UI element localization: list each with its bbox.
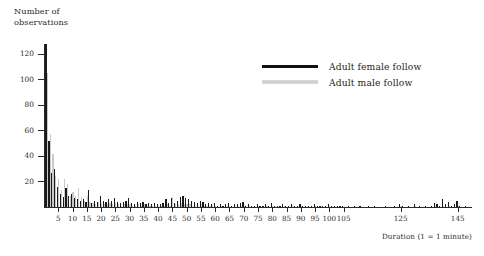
bar-female: [402, 206, 403, 207]
y-tick-mark: [38, 181, 45, 182]
bar-female: [200, 201, 201, 207]
bar-female: [177, 201, 178, 207]
bar-female: [180, 197, 181, 207]
x-tick-label: 95: [310, 214, 319, 223]
bar-female: [114, 198, 115, 207]
x-tick-label: 125: [394, 214, 408, 223]
bar-female: [245, 206, 246, 207]
x-tick-label: 45: [168, 214, 177, 223]
y-tick-mark: [38, 156, 45, 157]
bar-female: [134, 204, 135, 207]
x-tick-label: 25: [111, 214, 120, 223]
bar-female: [54, 169, 55, 207]
bar-female: [456, 201, 457, 207]
x-tick-mark: [115, 208, 116, 212]
bar-female: [202, 202, 203, 207]
bar-female: [414, 204, 415, 207]
x-tick-label: 55: [196, 214, 205, 223]
bar-female: [242, 202, 243, 207]
bar-female: [297, 206, 298, 207]
bar-female: [123, 202, 124, 207]
bar-female: [151, 204, 152, 207]
bar-female: [317, 206, 318, 207]
x-axis-title: Duration (1 = 1 minute): [382, 232, 472, 241]
bar-female: [48, 141, 49, 207]
bar-female: [154, 203, 155, 207]
bar-female: [337, 206, 338, 207]
bar-female: [419, 206, 420, 207]
bar-female: [259, 206, 260, 207]
bar-female: [299, 204, 300, 207]
bar-female: [222, 206, 223, 207]
bar-female: [94, 201, 95, 207]
x-tick-label: 35: [139, 214, 148, 223]
x-tick-mark: [187, 208, 188, 212]
bar-female: [137, 202, 138, 207]
bar-female: [88, 190, 89, 207]
bar-female: [131, 203, 132, 207]
bar-female: [274, 206, 275, 207]
bar-female: [83, 199, 84, 207]
y-tick-mark: [38, 130, 45, 131]
x-tick-mark: [73, 208, 74, 212]
bar-female: [111, 201, 112, 207]
y-tick-mark: [38, 79, 45, 80]
bar-female: [214, 203, 215, 207]
bar-female: [328, 204, 329, 207]
bar-female: [459, 206, 460, 207]
bar-female: [103, 201, 104, 207]
x-tick-mark: [401, 208, 402, 212]
bar-female: [108, 199, 109, 207]
legend-item-female: Adult female follow: [262, 58, 421, 74]
bar-female: [319, 206, 320, 207]
x-tick-mark: [172, 208, 173, 212]
bar-female: [185, 198, 186, 207]
y-tick-mark: [38, 54, 45, 55]
bar-female: [171, 198, 172, 207]
x-tick-label: 70: [239, 214, 248, 223]
bar-female: [194, 202, 195, 207]
x-tick-mark: [458, 208, 459, 212]
bar-female: [60, 194, 61, 207]
bar-female: [268, 206, 269, 207]
x-tick-mark: [315, 208, 316, 212]
chart-legend: Adult female follow Adult male follow: [262, 58, 421, 90]
bar-female: [279, 206, 280, 207]
x-tick-mark: [301, 208, 302, 212]
x-tick-label: 80: [268, 214, 277, 223]
bar-female: [120, 203, 121, 207]
bar-female: [331, 206, 332, 207]
x-tick-label: 100: [322, 214, 336, 223]
bar-female: [97, 202, 98, 207]
x-tick-label: 85: [282, 214, 291, 223]
bar-female: [165, 199, 166, 207]
bar-female: [311, 206, 312, 207]
bar-female: [100, 196, 101, 207]
bar-female: [148, 203, 149, 207]
bar-female: [431, 206, 432, 207]
x-tick-mark: [144, 208, 145, 212]
bar-female: [234, 204, 235, 207]
bar-female: [240, 203, 241, 207]
bar-female: [282, 204, 283, 207]
y-axis-title: Number of observations: [14, 6, 68, 28]
bar-female: [251, 206, 252, 207]
bar-female: [220, 204, 221, 207]
x-tick-mark: [130, 208, 131, 212]
histogram-figure: Number of observations 20406080100120 51…: [0, 0, 484, 256]
bar-female: [205, 204, 206, 207]
bar-female: [71, 194, 72, 207]
bar-female: [465, 206, 466, 207]
bar-female: [277, 206, 278, 207]
bar-female: [182, 196, 183, 207]
bar-female: [74, 198, 75, 207]
bar-female: [225, 204, 226, 207]
bar-female: [439, 206, 440, 207]
bar-female: [208, 203, 209, 207]
bar-female: [368, 206, 369, 207]
bar-female: [445, 204, 446, 207]
x-tick-label: 145: [451, 214, 465, 223]
bar-female: [348, 206, 349, 207]
bar-female: [291, 204, 292, 207]
bar-female: [174, 203, 175, 207]
